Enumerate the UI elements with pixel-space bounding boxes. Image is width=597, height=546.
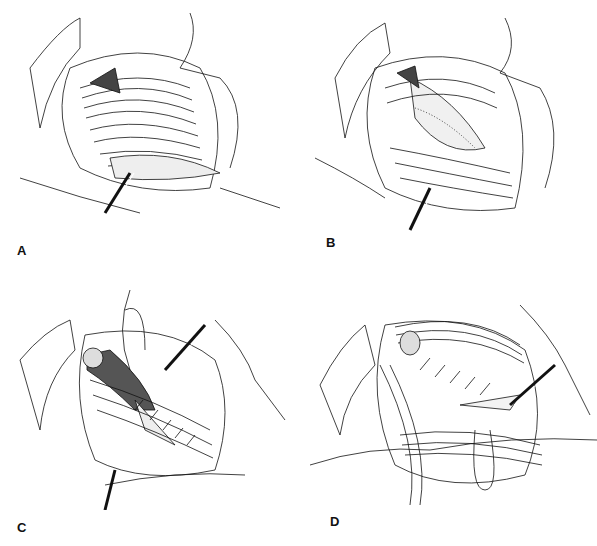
surgical-illustration-b [315,8,585,233]
panel-label-c: C [17,520,26,535]
panel-a [20,8,280,218]
panel-d [310,265,597,510]
panel-label-a: A [17,243,26,258]
panel-label-d: D [330,514,339,529]
panel-label-b: B [326,235,335,250]
panel-c [15,270,295,510]
surgical-illustration-c [15,270,295,510]
surgical-illustration-a [20,8,280,218]
panel-b [315,8,585,233]
surgical-illustration-d [310,265,597,510]
